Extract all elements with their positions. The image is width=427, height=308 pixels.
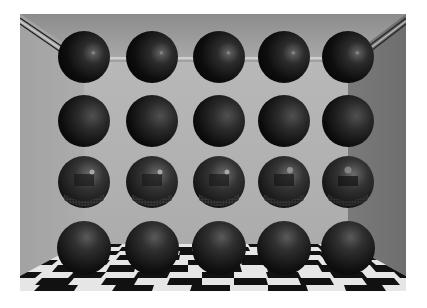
sphere bbox=[58, 95, 110, 147]
sphere bbox=[58, 156, 110, 208]
sphere bbox=[125, 221, 179, 275]
sphere bbox=[322, 156, 374, 208]
sphere bbox=[193, 95, 245, 147]
sphere bbox=[126, 95, 178, 147]
back-wall bbox=[84, 58, 348, 244]
sphere bbox=[126, 156, 178, 208]
scene-canvas bbox=[20, 14, 406, 291]
sphere bbox=[258, 31, 310, 83]
sphere bbox=[58, 31, 110, 83]
sphere bbox=[193, 31, 245, 83]
sphere bbox=[193, 156, 245, 208]
sphere bbox=[192, 221, 246, 275]
sphere bbox=[126, 31, 178, 83]
sphere bbox=[258, 156, 310, 208]
sphere bbox=[321, 221, 375, 275]
sphere bbox=[322, 31, 374, 83]
rendered-room-scene bbox=[20, 14, 406, 291]
sphere bbox=[322, 95, 374, 147]
sphere bbox=[57, 221, 111, 275]
sphere bbox=[258, 95, 310, 147]
sphere bbox=[257, 221, 311, 275]
